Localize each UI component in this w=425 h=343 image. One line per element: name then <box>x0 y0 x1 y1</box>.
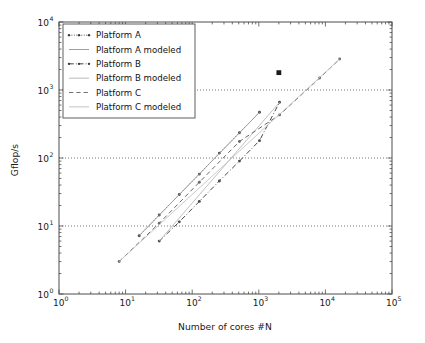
data-point-marker <box>178 220 181 223</box>
data-point-marker <box>218 179 221 182</box>
chart-figure: 100101102103104105100101102103104 Platfo… <box>0 0 425 343</box>
x-axis-label: Number of cores #N <box>178 321 272 332</box>
legend-swatch-marker <box>78 34 80 36</box>
data-point-marker <box>238 140 241 143</box>
legend-swatch-marker <box>88 34 90 36</box>
svg-text:10: 10 <box>38 86 50 96</box>
isolated-marker <box>276 70 281 75</box>
legend-swatch-marker <box>68 63 70 65</box>
legend[interactable]: Platform APlatform A modeledPlatform BPl… <box>63 24 195 118</box>
legend-label: Platform C <box>96 88 141 98</box>
legend-swatch-marker <box>78 63 80 65</box>
svg-text:10: 10 <box>120 298 132 308</box>
legend-label: Platform B modeled <box>96 73 181 83</box>
legend-label: Platform C modeled <box>96 102 181 112</box>
svg-text:2: 2 <box>50 151 54 158</box>
svg-text:5: 5 <box>398 295 402 302</box>
svg-text:10: 10 <box>253 298 265 308</box>
log-log-scaling-chart: 100101102103104105100101102103104 Platfo… <box>0 0 425 343</box>
svg-text:1: 1 <box>131 295 135 302</box>
svg-text:10: 10 <box>186 298 198 308</box>
svg-text:4: 4 <box>50 15 54 22</box>
legend-swatch-marker <box>68 34 70 36</box>
svg-text:10: 10 <box>319 298 331 308</box>
svg-text:3: 3 <box>50 83 54 90</box>
svg-text:10: 10 <box>38 290 50 300</box>
svg-text:10: 10 <box>38 222 50 232</box>
data-point-marker <box>238 160 241 163</box>
svg-text:0: 0 <box>65 295 69 302</box>
data-point-marker <box>258 139 261 142</box>
legend-label: Platform A modeled <box>96 45 181 55</box>
legend-swatch-marker <box>88 63 90 65</box>
data-point-marker <box>198 200 201 203</box>
svg-text:2: 2 <box>198 295 202 302</box>
svg-text:0: 0 <box>50 287 54 294</box>
svg-text:3: 3 <box>264 295 268 302</box>
annotation-layer <box>276 70 281 75</box>
data-point-marker <box>198 181 201 184</box>
svg-text:4: 4 <box>331 295 335 302</box>
svg-text:10: 10 <box>386 298 398 308</box>
legend-label: Platform B <box>96 59 141 69</box>
svg-text:10: 10 <box>38 154 50 164</box>
svg-text:1: 1 <box>50 219 54 226</box>
svg-text:10: 10 <box>38 18 50 28</box>
legend-label: Platform A <box>96 30 141 40</box>
y-axis-label: Gflop/s <box>9 144 20 176</box>
svg-text:10: 10 <box>53 298 65 308</box>
